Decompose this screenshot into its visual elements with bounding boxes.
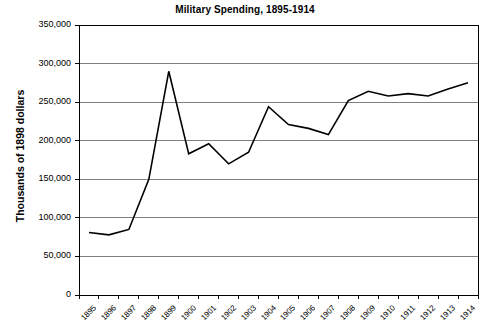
y-tick-label: 250,000 [0, 96, 71, 106]
y-tick-label: 300,000 [0, 58, 71, 68]
chart-figure: Military Spending, 1895-1914 Thousands o… [0, 0, 490, 330]
y-tick-label: 350,000 [0, 19, 71, 29]
data-series-line [89, 71, 468, 235]
y-tick-label: 200,000 [0, 135, 71, 145]
y-tick-label: 100,000 [0, 212, 71, 222]
plot-area [0, 0, 490, 330]
y-tick-label: 50,000 [0, 250, 71, 260]
y-tick-label: 150,000 [0, 173, 71, 183]
y-tick-label: 0 [0, 289, 71, 299]
